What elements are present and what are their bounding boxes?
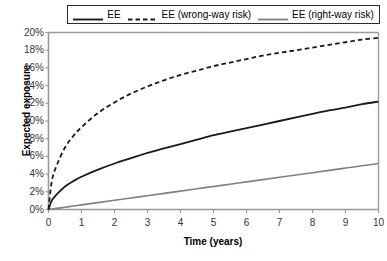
caption-fragment bbox=[4, 253, 383, 260]
chart-figure: EE EE (wrong-way risk) EE (right-way ris… bbox=[0, 0, 387, 261]
chart-plot-area bbox=[0, 0, 387, 261]
plot-background bbox=[49, 33, 379, 210]
x-axis-title: Time (years) bbox=[48, 236, 378, 247]
